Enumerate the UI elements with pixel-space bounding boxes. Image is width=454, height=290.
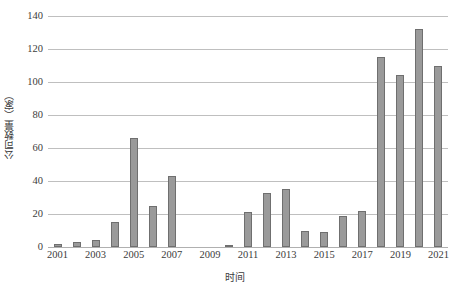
bar-2014 <box>301 231 309 248</box>
y-tick-label-120: 120 <box>27 44 43 55</box>
x-tick-label-2007: 2007 <box>161 250 182 261</box>
bar-2005 <box>130 138 138 247</box>
plot-area <box>48 16 448 247</box>
y-axis-tick-labels: 020406080100120140 <box>18 16 46 247</box>
bar-2013 <box>282 189 290 247</box>
x-tick-label-2005: 2005 <box>123 250 144 261</box>
bar-2001 <box>54 244 62 247</box>
x-axis-title: 时间 <box>0 269 454 284</box>
x-tick-label-2001: 2001 <box>47 250 68 261</box>
gridline-0 <box>48 247 448 248</box>
bar-2006 <box>149 206 157 247</box>
bar-2012 <box>263 193 271 247</box>
y-tick-label-80: 80 <box>33 110 44 121</box>
x-tick-label-2021: 2021 <box>428 250 449 261</box>
bar-2010 <box>225 245 233 247</box>
y-tick-label-0: 0 <box>38 242 43 253</box>
bar-2017 <box>358 211 366 247</box>
y-tick-label-140: 140 <box>27 11 43 22</box>
bar-2007 <box>168 176 176 247</box>
x-tick-label-2019: 2019 <box>390 250 411 261</box>
bar-2021 <box>434 66 442 248</box>
y-tick-label-60: 60 <box>33 143 44 154</box>
x-axis-tick-labels: 2001200320052007200920112013201520172019… <box>48 250 448 266</box>
y-axis-title-label: 公司数量（家） <box>2 90 17 160</box>
bar-2004 <box>111 222 119 247</box>
x-tick-label-2013: 2013 <box>276 250 297 261</box>
x-tick-label-2003: 2003 <box>85 250 106 261</box>
bar-2015 <box>320 232 328 247</box>
x-axis-title-label: 时间 <box>225 269 245 284</box>
bars-layer <box>48 16 448 247</box>
x-tick-label-2017: 2017 <box>352 250 373 261</box>
y-tick-label-100: 100 <box>27 77 43 88</box>
bar-2019 <box>396 75 404 247</box>
y-axis-title: 公司数量（家） <box>0 0 18 250</box>
bar-chart: 公司数量（家） 020406080100120140 2001200320052… <box>0 0 454 290</box>
bar-2016 <box>339 216 347 247</box>
bar-2020 <box>415 29 423 247</box>
y-tick-label-40: 40 <box>33 176 44 187</box>
x-tick-label-2011: 2011 <box>238 250 259 261</box>
bar-2002 <box>73 242 81 247</box>
y-tick-label-20: 20 <box>33 209 44 220</box>
bar-2003 <box>92 240 100 247</box>
bar-2011 <box>244 212 252 247</box>
x-tick-label-2009: 2009 <box>199 250 220 261</box>
bar-2018 <box>377 57 385 247</box>
x-tick-label-2015: 2015 <box>314 250 335 261</box>
